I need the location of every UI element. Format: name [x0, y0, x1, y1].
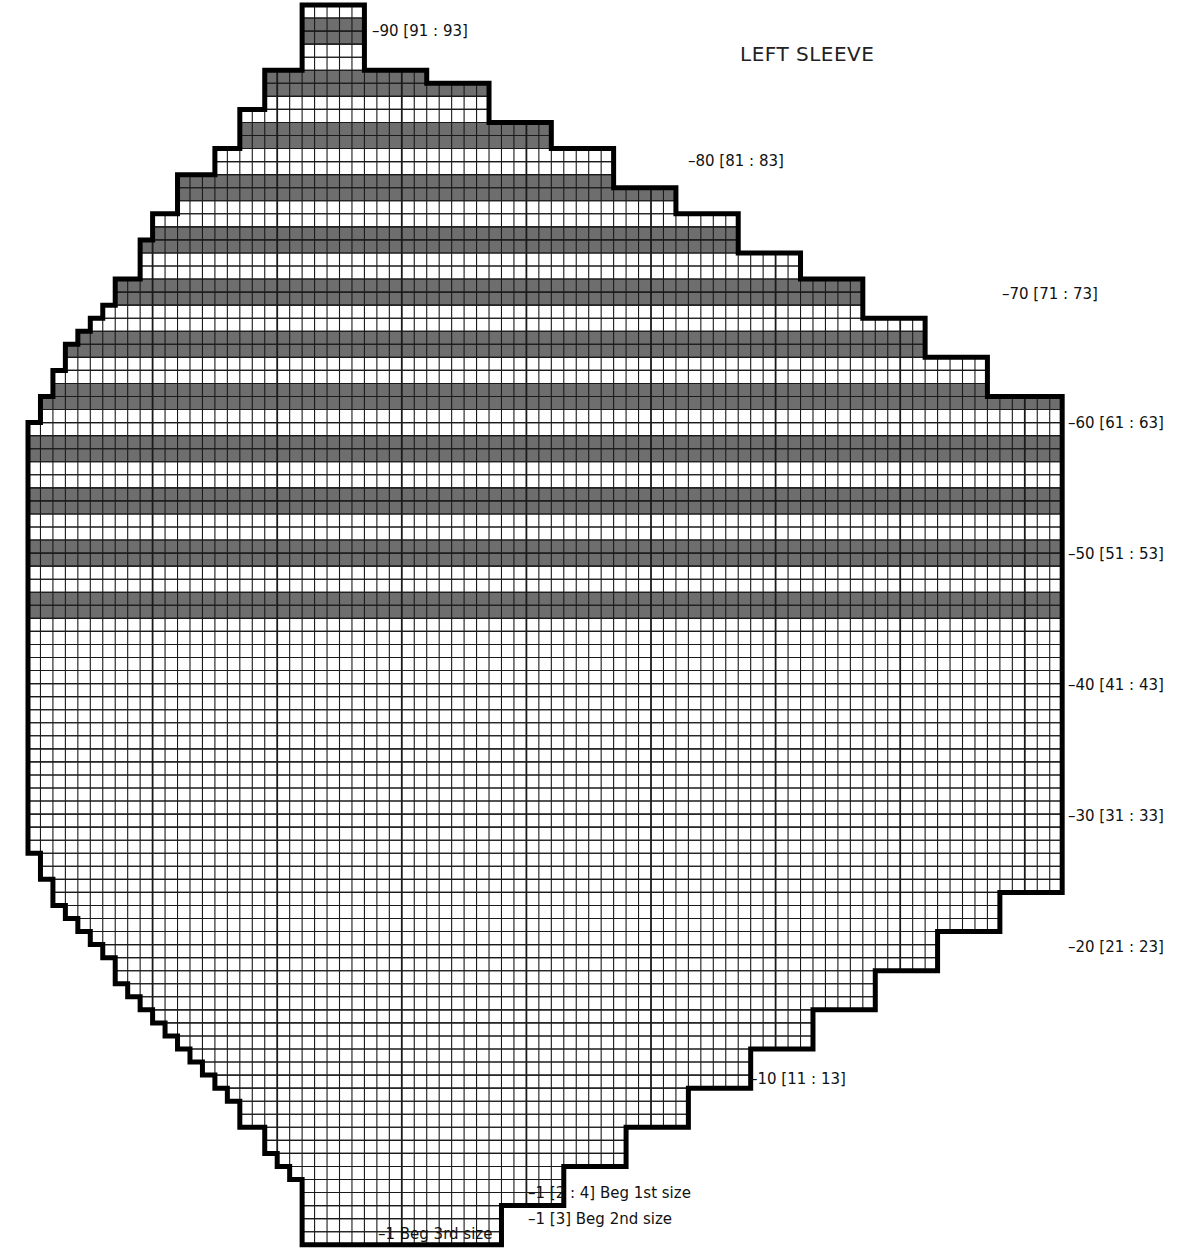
knitting-chart-grid [0, 0, 1184, 1257]
row-label: –20 [21 : 23] [1068, 938, 1164, 956]
row-label: –80 [81 : 83] [688, 152, 784, 170]
row-label: –40 [41 : 43] [1068, 676, 1164, 694]
row-label: –60 [61 : 63] [1068, 414, 1164, 432]
row-label: –1 [2 : 4] Beg 1st size [528, 1184, 691, 1202]
row-label: –1 Beg 3rd size [378, 1225, 492, 1243]
row-label: –30 [31 : 33] [1068, 807, 1164, 825]
row-label: –50 [51 : 53] [1068, 545, 1164, 563]
chart-title: LEFT SLEEVE [740, 42, 874, 66]
row-label: –90 [91 : 93] [372, 22, 468, 40]
row-label: –70 [71 : 73] [1002, 285, 1098, 303]
row-label: –1 [3] Beg 2nd size [528, 1210, 672, 1228]
row-label: –10 [11 : 13] [750, 1070, 846, 1088]
